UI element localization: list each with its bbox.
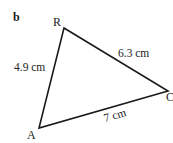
vertex-label-A: A [27,128,36,142]
vertex-label-R: R [53,15,61,29]
triangle-svg: b R C A 4.9 cm 6.3 cm 7 cm [0,0,173,143]
triangle-diagram: b R C A 4.9 cm 6.3 cm 7 cm [0,0,173,143]
side-label-AR: 4.9 cm [14,61,45,73]
vertex-label-C: C [166,90,173,104]
part-label: b [13,10,20,24]
side-label-RC: 6.3 cm [118,47,149,59]
